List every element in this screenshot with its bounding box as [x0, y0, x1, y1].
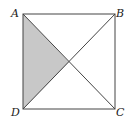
- vertex-label-a: A: [10, 7, 19, 20]
- square-diagram: A B C D: [0, 0, 128, 119]
- vertex-label-c: C: [116, 106, 125, 119]
- shaded-triangle: [23, 14, 69, 109]
- vertex-label-b: B: [115, 7, 124, 20]
- vertex-label-d: D: [10, 106, 20, 119]
